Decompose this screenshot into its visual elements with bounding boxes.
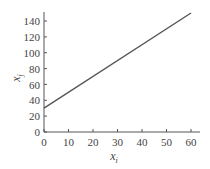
y-axis-label: xj [9, 73, 25, 82]
y-tick-label: 100 [24, 47, 41, 59]
x-tick-label: 60 [186, 136, 198, 148]
x-tick-labels: 0 10 20 30 40 50 60 [41, 136, 197, 148]
y-tick-label: 80 [29, 63, 41, 75]
x-tick-label: 10 [63, 136, 75, 148]
y-tick-labels: 0 20 40 60 80 100 120 140 [24, 15, 41, 138]
y-tick-label: 120 [24, 31, 41, 43]
svg-text:xj: xj [9, 73, 25, 82]
x-tick-label: 30 [112, 136, 124, 148]
x-tick-label: 20 [88, 136, 100, 148]
chart: 0 20 40 60 80 100 120 140 0 10 20 30 40 … [0, 0, 210, 169]
x-tick-label: 50 [161, 136, 173, 148]
y-tick-label: 140 [24, 15, 41, 27]
x-tick-label: 40 [137, 136, 149, 148]
data-line [44, 13, 191, 108]
y-tick-label: 20 [29, 110, 41, 122]
y-tick-label: 60 [29, 79, 41, 91]
y-tick-label: 40 [29, 94, 41, 106]
y-tick-label: 0 [35, 126, 41, 138]
x-axis-label: xi [109, 149, 118, 165]
x-tick-label: 0 [41, 136, 47, 148]
